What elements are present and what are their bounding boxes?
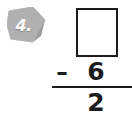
math-problem-worksheet: 4. – 6 2 xyxy=(0,0,132,117)
difference-digit: 2 xyxy=(84,89,108,115)
minus-sign-icon: – xyxy=(53,60,71,84)
answer-input-box[interactable] xyxy=(76,8,118,57)
pentagon-badge-icon xyxy=(7,7,46,43)
subtrahend-digit: 6 xyxy=(84,58,108,84)
problem-number-badge: 4. xyxy=(7,7,46,43)
